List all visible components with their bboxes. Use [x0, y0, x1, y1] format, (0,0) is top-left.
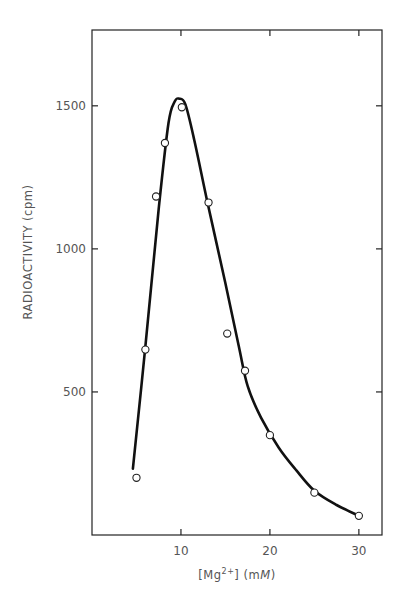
axis-ticks: [92, 30, 382, 535]
x-label-close: ] (m: [234, 568, 260, 582]
x-label-open: [Mg: [198, 568, 221, 582]
x-tick-label: 10: [173, 544, 188, 558]
data-point-marker: [311, 489, 318, 496]
data-point-marker: [266, 432, 273, 439]
chart: 10203050010001500 RADIOACTIVITY (cpm) [M…: [0, 0, 408, 610]
y-tick-label: 1500: [55, 99, 86, 113]
data-point-marker: [355, 512, 362, 519]
data-point-marker: [224, 330, 231, 337]
data-points: [133, 104, 363, 520]
x-tick-label: 30: [351, 544, 366, 558]
data-point-marker: [241, 367, 248, 374]
x-tick-label: 20: [262, 544, 277, 558]
y-axis-label: RADIOACTIVITY (cpm): [21, 185, 35, 320]
data-point-marker: [205, 199, 212, 206]
x-label-sup: 2+: [222, 567, 235, 576]
data-point-marker: [161, 139, 168, 146]
x-label-end: ): [271, 568, 276, 582]
tick-labels: 10203050010001500: [55, 99, 366, 558]
y-tick-label: 500: [63, 385, 86, 399]
data-point-marker: [133, 474, 140, 481]
data-point-marker: [178, 104, 185, 111]
plot-frame: [92, 30, 382, 535]
data-point-marker: [142, 346, 149, 353]
x-axis-label: [Mg2+] (mM): [198, 567, 275, 582]
y-tick-label: 1000: [55, 242, 86, 256]
fitted-curve: [133, 98, 359, 515]
x-label-unit: M: [260, 568, 270, 582]
data-point-marker: [152, 193, 159, 200]
